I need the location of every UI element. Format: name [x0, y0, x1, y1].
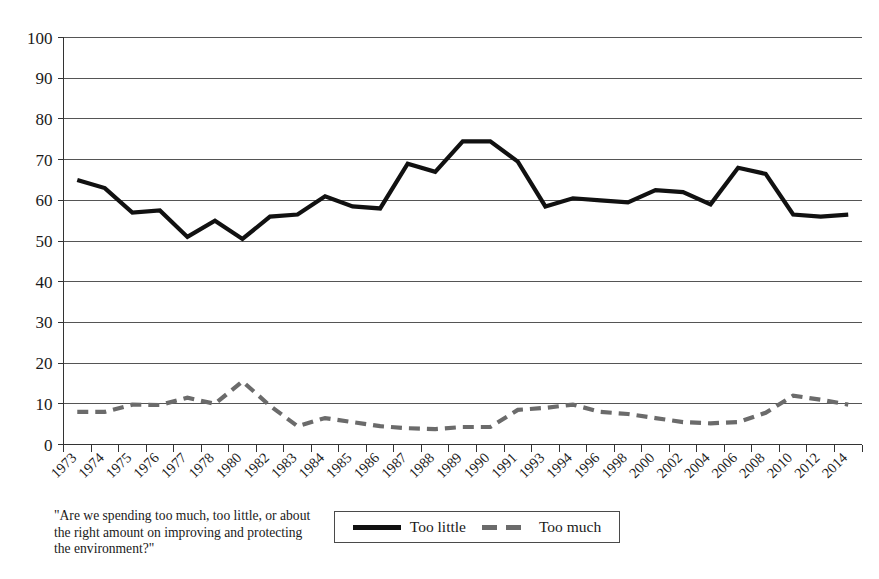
y-tick-label: 10: [36, 395, 53, 414]
y-tick-label: 60: [36, 191, 53, 210]
x-tick-label: 1982: [240, 449, 272, 481]
x-tick-label: 1996: [571, 449, 603, 481]
x-tick-label: 1985: [323, 449, 355, 481]
legend-swatch-solid-icon: [353, 525, 401, 530]
x-tick-label: 1980: [213, 449, 245, 481]
x-tick-label: 1984: [295, 449, 327, 481]
y-tick-label: 30: [36, 313, 53, 332]
x-tick-label: 1988: [406, 449, 438, 481]
x-tick-label: 1991: [488, 449, 520, 481]
x-tick-labels-group: 1973197419751976197719781980198219831984…: [48, 449, 851, 481]
x-tick-label: 1998: [598, 449, 630, 481]
x-tick-label: 1977: [158, 449, 190, 481]
x-tick-label: 1989: [433, 449, 465, 481]
y-tick-label: 0: [44, 436, 53, 455]
x-tick-label: 2000: [626, 449, 658, 481]
x-tick-label: 1990: [461, 449, 493, 481]
chart-plot-area: 0102030405060708090100 19731974197519761…: [0, 0, 879, 579]
y-tick-label: 50: [36, 232, 53, 251]
x-tick-label: 1994: [543, 449, 575, 481]
y-tick-labels-group: 0102030405060708090100: [27, 29, 53, 455]
y-tick-label: 40: [36, 273, 53, 292]
x-tick-label: 2008: [736, 449, 768, 481]
x-tick-label: 1987: [378, 449, 410, 481]
y-tick-marks-group: [58, 38, 64, 445]
x-tick-label: 1978: [185, 449, 217, 481]
x-tick-label: 1976: [130, 449, 162, 481]
legend-entry-too-little: Too little: [353, 518, 466, 536]
x-tick-label: 1986: [350, 449, 382, 481]
x-tick-label: 1974: [75, 449, 107, 481]
y-tick-label: 100: [27, 29, 53, 48]
x-tick-label: 1975: [103, 449, 135, 481]
x-tick-label: 2002: [653, 449, 685, 481]
legend-label-too-little: Too little: [410, 518, 466, 536]
x-tick-label: 2010: [763, 449, 795, 481]
legend-swatch-dashed-icon: [482, 525, 530, 530]
y-tick-label: 20: [36, 354, 53, 373]
x-tick-label: 2014: [819, 449, 851, 481]
y-tick-label: 70: [36, 151, 53, 170]
environment-spending-line-chart: 0102030405060708090100 19731974197519761…: [0, 0, 879, 579]
x-tick-label: 1983: [268, 449, 300, 481]
series-line-too-much: [77, 381, 848, 429]
x-tick-label: 1993: [516, 449, 548, 481]
series-line-too-little: [77, 141, 848, 239]
y-tick-label: 80: [36, 110, 53, 129]
gridlines-group: [64, 38, 863, 404]
chart-caption: "Are we spending too much, too little, o…: [54, 508, 316, 558]
x-tick-label: 2004: [681, 449, 713, 481]
x-tick-label: 2012: [791, 449, 823, 481]
x-tick-marks-group: [64, 445, 863, 452]
legend-entry-too-much: Too much: [482, 518, 601, 536]
y-tick-label: 90: [36, 69, 53, 88]
x-tick-label: 2006: [708, 449, 740, 481]
legend-label-too-much: Too much: [539, 518, 601, 536]
chart-legend: Too little Too much: [334, 511, 620, 543]
